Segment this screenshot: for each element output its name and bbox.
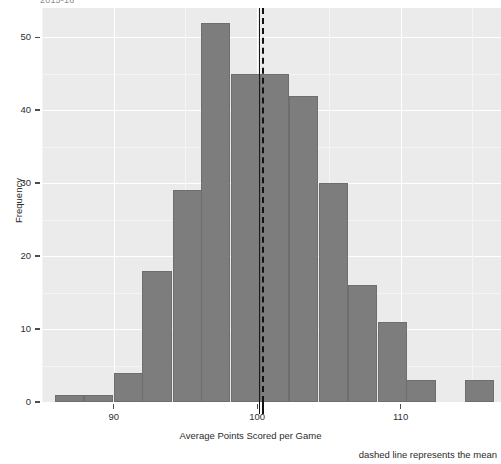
x-tick-mark [113, 404, 114, 409]
y-tick-mark [35, 182, 40, 183]
gridline [114, 8, 115, 402]
histogram-bar [231, 74, 260, 402]
histogram-bar [319, 183, 348, 402]
gridline [42, 37, 501, 38]
histogram-bar [289, 96, 318, 402]
histogram-bar [378, 322, 407, 402]
histogram-bar [260, 74, 289, 402]
y-tick-label: 40 [9, 105, 31, 115]
histogram-bar [84, 395, 113, 402]
y-tick-mark [35, 328, 40, 329]
x-axis-title: Average Points Scored per Game [0, 430, 501, 441]
x-tick-mark [257, 404, 258, 409]
mean-line-annotation: dashed line represents the mean [359, 449, 497, 460]
gridline [472, 8, 473, 402]
gridline [42, 8, 43, 402]
mean-line-solid [259, 8, 260, 402]
histogram-bar [348, 285, 377, 402]
y-tick-mark [35, 255, 40, 256]
y-tick-label: 0 [9, 397, 31, 407]
histogram-figure: 2015-16 01020304050 90100110 Frequency A… [0, 0, 501, 464]
x-tick-label: 110 [381, 412, 421, 422]
mean-line-dashed-stub [262, 402, 264, 414]
plot-panel [42, 8, 501, 402]
histogram-bar [201, 23, 230, 402]
y-tick-label: 50 [9, 32, 31, 42]
histogram-bar [55, 395, 84, 402]
x-tick-label: 100 [237, 412, 277, 422]
y-tick-label: 20 [9, 251, 31, 261]
histogram-bar [114, 373, 143, 402]
mean-line-dashed [262, 8, 264, 402]
histogram-bar [173, 190, 202, 402]
y-tick-mark [35, 37, 40, 38]
y-tick-mark [35, 401, 40, 402]
y-tick-mark [35, 109, 40, 110]
clipped-top-caption: 2015-16 [40, 0, 74, 3]
y-axis-title: Frequency [13, 161, 24, 241]
histogram-bar [465, 380, 494, 402]
histogram-bar [406, 380, 435, 402]
mean-line-solid-stub [259, 402, 260, 414]
x-tick-label: 90 [94, 412, 134, 422]
x-tick-mark [400, 404, 401, 409]
histogram-bar [142, 271, 171, 402]
y-tick-label: 10 [9, 324, 31, 334]
